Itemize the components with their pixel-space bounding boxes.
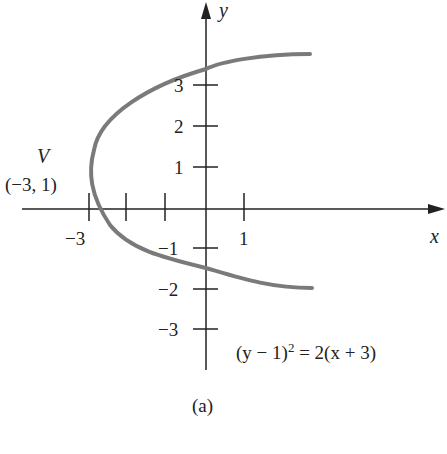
y-axis-arrow-icon (201, 2, 211, 19)
tick-label-y-neg3: −3 (158, 320, 178, 339)
vertex-name: V (37, 146, 49, 166)
tick-label-x-neg3: −3 (65, 229, 85, 248)
x-ticks (89, 193, 244, 221)
tick-label-x-1: 1 (239, 229, 249, 248)
vertex-coords: (−3, 1) (5, 175, 57, 194)
x-axis-arrow-icon (428, 204, 445, 214)
parabola-curve (91, 54, 312, 288)
x-axis-label: x (430, 226, 439, 246)
y-axis-label: y (219, 0, 228, 20)
figure-caption: (a) (192, 396, 213, 415)
tick-label-y-3: 3 (174, 76, 184, 95)
parabola-plot (0, 0, 447, 454)
equation-lhs: (y − 1) (236, 342, 288, 363)
equation-rhs: = 2(x + 3) (294, 342, 376, 363)
tick-label-y-neg2: −2 (158, 280, 178, 299)
tick-label-y-neg1: −1 (158, 239, 178, 258)
tick-label-y-2: 2 (174, 117, 184, 136)
equation-label: (y − 1)2 = 2(x + 3) (236, 341, 376, 362)
tick-label-y-1: 1 (174, 158, 184, 177)
